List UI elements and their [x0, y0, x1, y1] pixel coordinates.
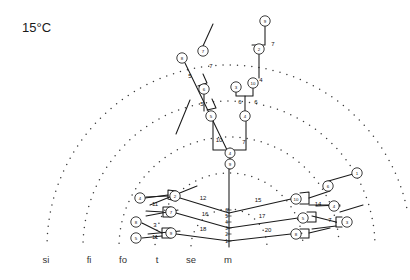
arc-dot: [235, 209, 237, 211]
tree-node-label: 10: [251, 81, 256, 86]
branch-mid-right-to-n6: [236, 92, 245, 96]
arc-dot: [166, 75, 168, 77]
arc-dot: [373, 225, 375, 227]
branch-left-diag-tick1: [176, 100, 190, 134]
arc-dot: [281, 195, 283, 197]
arc-dot: [206, 102, 208, 104]
arc-dot: [60, 177, 62, 179]
scale-tick-label: 4: [225, 220, 228, 225]
arc-dot: [119, 235, 121, 237]
arc-dot: [46, 240, 48, 242]
arc-dot: [122, 99, 124, 101]
arc-dot: [50, 211, 52, 213]
arc-dot: [309, 125, 311, 127]
arc-dot: [406, 207, 408, 209]
arc-dot: [283, 111, 285, 113]
arc-dot: [223, 172, 225, 174]
arc-dot: [325, 195, 327, 197]
arc-dot: [293, 157, 295, 159]
branch-bl-branch-a-node: [146, 196, 168, 197]
arc-dot: [63, 170, 65, 172]
arc-dot: [183, 146, 185, 148]
arc-dot: [105, 112, 107, 114]
arc-dot: [326, 138, 328, 140]
arc-dot: [359, 119, 361, 121]
arc-dot: [139, 182, 141, 184]
arc-dot: [363, 190, 365, 192]
branch-bl-branch-c-tail1: [142, 223, 162, 233]
arc-dot: [242, 211, 244, 213]
arc-dot: [341, 153, 343, 155]
edge-label: 15: [255, 197, 262, 203]
arc-dot: [211, 138, 213, 140]
scale-tick-label: 1: [225, 239, 228, 244]
arc-dot: [190, 143, 192, 145]
arc-dot: [353, 114, 355, 116]
arc-dot: [227, 100, 229, 102]
branch-br-branch-a-tail: [309, 191, 330, 198]
arc-dot: [215, 65, 217, 67]
arc-dot: [154, 244, 156, 246]
tree-node-label: 10: [294, 197, 299, 202]
arc-dot: [47, 233, 49, 235]
arc-dot: [337, 100, 339, 102]
arc-dot: [296, 117, 298, 119]
arc-dot: [371, 218, 373, 220]
arc-dot: [244, 174, 246, 176]
arc-dot: [99, 179, 101, 181]
arc-dot: [183, 188, 185, 190]
arc-dot: [313, 85, 315, 87]
branch-upper-fork-right: [230, 121, 246, 150]
arc-dot: [334, 215, 336, 217]
arc-dot: [164, 209, 166, 211]
arc-dot: [124, 144, 126, 146]
arc-dot: [194, 68, 196, 70]
arc-dot: [377, 141, 379, 143]
arc-dot: [402, 193, 404, 195]
arc-dot: [153, 81, 155, 83]
branch-br-far-hook: [336, 217, 342, 227]
arc-dot: [331, 96, 333, 98]
edge-label: 10: [216, 137, 223, 143]
arc-dot: [53, 197, 55, 199]
arc-dot: [258, 178, 260, 180]
scale-tick-label: 2: [225, 232, 228, 237]
branch-br-far-stick: [340, 205, 363, 212]
arc-dot: [294, 212, 296, 214]
arc-dot: [248, 214, 250, 216]
arc-dot: [251, 176, 253, 178]
arc-dot: [298, 161, 300, 163]
arc-dot: [185, 107, 187, 109]
arc-dot: [134, 91, 136, 93]
arc-dot: [237, 173, 239, 175]
axis-label-m: m: [224, 254, 232, 265]
arc-dot: [274, 146, 276, 148]
scale-tick-label: 5: [225, 214, 228, 219]
arc-dot: [146, 126, 148, 128]
arc-dot: [244, 65, 246, 67]
branch-bl-branch-c: [176, 234, 229, 241]
arc-dot: [96, 185, 98, 187]
arc-dot: [404, 200, 406, 202]
radial-tree-diagram: 775466510711121514161737182011 654321 92…: [0, 0, 410, 280]
arc-dot: [374, 239, 376, 241]
arc-dot: [370, 211, 372, 213]
arc-dot: [121, 221, 123, 223]
arc-dot: [161, 216, 163, 218]
arc-dot: [164, 157, 166, 159]
arc-dot: [381, 147, 383, 149]
arc-dot: [173, 73, 175, 75]
arc-dot: [143, 176, 145, 178]
branch-upper-right-top: [259, 26, 265, 45]
arc-dot: [208, 175, 210, 177]
arc-dot: [343, 105, 345, 107]
arc-dot: [85, 134, 87, 136]
edge-label: 7: [328, 217, 332, 223]
arc-dot: [47, 226, 49, 228]
arc-dot: [277, 109, 279, 111]
arc-dot: [84, 227, 86, 229]
arc-dot: [213, 211, 215, 213]
arc-dot: [280, 149, 282, 151]
branch-bl-branch-b-tail: [146, 211, 163, 212]
arc-dot: [131, 194, 133, 196]
